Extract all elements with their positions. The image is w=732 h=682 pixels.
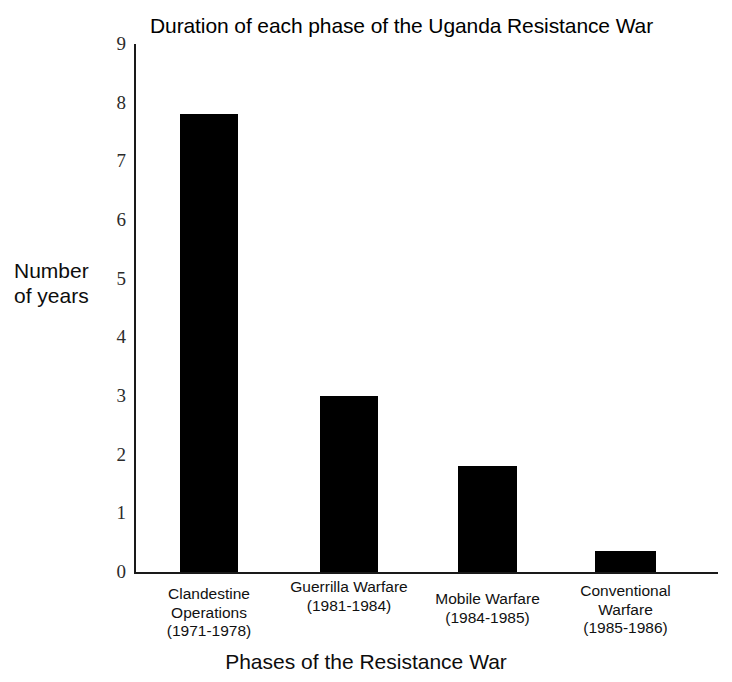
x-axis-line: [134, 572, 718, 574]
x-category-label-4: ConventionalWarfare(1985-1986): [536, 582, 716, 638]
bar-chart-figure: Duration of each phase of the Uganda Res…: [0, 0, 732, 682]
y-tick-label-7: 7: [100, 150, 126, 172]
bar-4: [595, 551, 656, 572]
x-axis-title: Phases of the Resistance War: [0, 650, 732, 674]
bar-3: [458, 466, 517, 572]
y-tick-label-9: 9: [100, 33, 126, 55]
y-tick-label-6: 6: [100, 209, 126, 231]
x-category-label-1-line-3: (1971-1978): [119, 622, 299, 641]
y-axis-line: [134, 44, 136, 574]
bar-1: [180, 114, 238, 572]
y-tick-label-1: 1: [100, 502, 126, 524]
y-axis-title-line-2: of years: [14, 283, 126, 308]
y-tick-label-2: 2: [100, 444, 126, 466]
bar-2: [320, 396, 378, 572]
y-tick-label-4: 4: [100, 326, 126, 348]
y-axis-tick-labels: 0123456789: [94, 0, 126, 682]
x-category-label-4-line-3: (1985-1986): [536, 619, 716, 638]
chart-title: Duration of each phase of the Uganda Res…: [150, 14, 720, 38]
y-tick-label-0: 0: [100, 561, 126, 583]
x-category-label-4-line-2: Warfare: [536, 601, 716, 620]
x-category-label-4-line-1: Conventional: [536, 582, 716, 601]
y-tick-label-3: 3: [100, 385, 126, 407]
y-axis-title-line-1: Number: [14, 258, 126, 283]
y-axis-title: Number of years: [14, 258, 126, 308]
y-tick-label-8: 8: [100, 92, 126, 114]
